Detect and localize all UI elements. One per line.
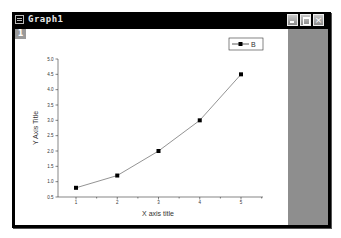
data-point-square-marker-icon[interactable] bbox=[157, 149, 161, 153]
y-tick-label: 3.5 bbox=[47, 103, 54, 108]
restore-button[interactable] bbox=[300, 14, 311, 26]
x-tick-label: 2 bbox=[116, 200, 119, 205]
x-tick-label: 5 bbox=[240, 200, 243, 205]
legend[interactable]: B bbox=[229, 38, 263, 50]
data-point-square-marker-icon[interactable] bbox=[74, 186, 78, 190]
x-tick-label: 3 bbox=[157, 200, 160, 205]
close-button[interactable]: × bbox=[313, 14, 324, 26]
series-b-line bbox=[76, 74, 241, 187]
y-tick-label: 4.5 bbox=[47, 72, 54, 77]
graph-window: Graph1 × 1 0.51.01.52.02.53.03.54.04.55.… bbox=[12, 12, 331, 228]
title-bar[interactable]: Graph1 × bbox=[12, 12, 331, 29]
graph-page[interactable]: 1 0.51.01.52.02.53.03.54.04.55.0 12345 X… bbox=[15, 29, 328, 225]
y-tick-label: 1.0 bbox=[47, 179, 54, 184]
y-tick-label: 2.0 bbox=[47, 149, 54, 154]
x-axis-title: X axis title bbox=[142, 210, 174, 217]
minimize-button[interactable] bbox=[287, 14, 298, 26]
page-margin-panel bbox=[288, 29, 328, 225]
x-tick-label: 1 bbox=[75, 200, 78, 205]
y-tick-label: 2.5 bbox=[47, 133, 54, 138]
y-tick-label: 4.0 bbox=[47, 87, 54, 92]
y-tick-label: 0.5 bbox=[47, 195, 54, 200]
data-point-square-marker-icon[interactable] bbox=[239, 72, 243, 76]
legend-label: B bbox=[251, 41, 256, 48]
window-icon[interactable] bbox=[15, 15, 24, 24]
data-point-square-marker-icon[interactable] bbox=[115, 174, 119, 178]
y-axis-title: Y Axis Title bbox=[32, 111, 39, 145]
y-tick-label: 1.5 bbox=[47, 164, 54, 169]
y-tick-label: 5.0 bbox=[47, 57, 54, 62]
y-tick-label: 3.0 bbox=[47, 118, 54, 123]
legend-square-marker-icon bbox=[239, 42, 243, 46]
data-point-square-marker-icon[interactable] bbox=[198, 118, 202, 122]
chart: 0.51.01.52.02.53.03.54.04.55.0 12345 X a… bbox=[15, 29, 288, 225]
x-tick-label: 4 bbox=[198, 200, 201, 205]
window-title: Graph1 bbox=[28, 14, 64, 24]
